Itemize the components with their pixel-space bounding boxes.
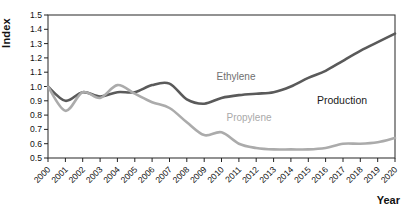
x-tick-label: 2019	[362, 164, 383, 185]
propylene-label: Propylene	[226, 112, 271, 123]
x-axis-title: Year	[352, 194, 400, 206]
x-tick-label: 2009	[188, 164, 209, 185]
x-tick-label: 2018	[344, 164, 365, 185]
x-tick-label: 2007	[153, 164, 174, 185]
y-tick-label: 0.8	[30, 110, 42, 120]
y-tick-label: 1.5	[30, 10, 42, 20]
x-tick-label: 2020	[379, 164, 400, 185]
x-tick-label: 2014	[275, 164, 296, 185]
y-tick-label: 0.9	[30, 96, 42, 106]
x-tick-label: 2011	[223, 164, 243, 184]
y-tick-label: 1.0	[30, 82, 42, 92]
x-tick-label: 2015	[292, 164, 313, 185]
y-tick-label: 1.3	[30, 39, 42, 49]
x-tick-label: 2016	[309, 164, 330, 185]
x-tick-label: 2005	[119, 164, 140, 185]
x-tick-label: 2004	[101, 164, 122, 185]
production-label: Production	[317, 94, 367, 106]
x-tick-label: 2017	[327, 164, 348, 185]
y-tick-label: 0.6	[30, 139, 42, 149]
plot-area: 0.50.60.70.80.91.01.11.21.31.41.52000200…	[0, 0, 410, 218]
x-tick-label: 2006	[136, 164, 157, 185]
y-tick-label: 0.7	[30, 124, 42, 134]
x-tick-label: 2002	[67, 164, 88, 185]
x-tick-label: 2008	[171, 164, 192, 185]
y-tick-label: 1.1	[30, 67, 42, 77]
x-tick-label: 2010	[205, 164, 226, 185]
y-tick-label: 0.5	[30, 153, 42, 163]
y-tick-label: 1.2	[30, 53, 42, 63]
ethylene-label: Ethylene	[217, 71, 256, 82]
plot-frame	[48, 15, 395, 158]
x-tick-label: 2003	[84, 164, 105, 185]
x-tick-label: 2012	[240, 164, 261, 185]
y-tick-label: 1.4	[30, 24, 42, 34]
line-chart-figure: Index 0.50.60.70.80.91.01.11.21.31.41.52…	[0, 0, 410, 218]
x-tick-label: 2000	[32, 164, 53, 185]
x-tick-label: 2001	[49, 164, 70, 185]
x-tick-label: 2013	[257, 164, 278, 185]
